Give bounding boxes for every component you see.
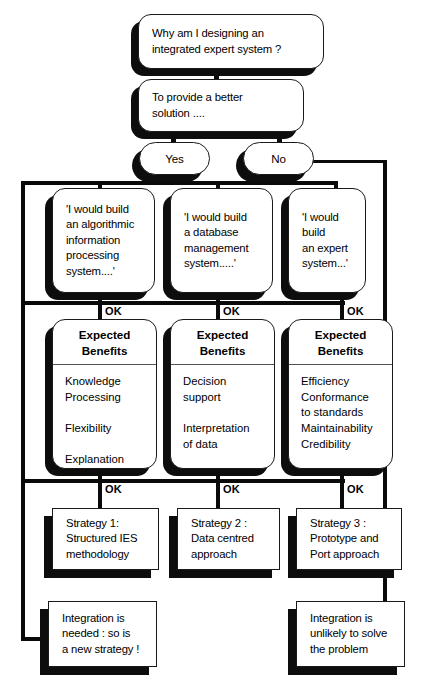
node-decision-no[interactable]: No xyxy=(243,142,314,175)
node-label: Strategy 1: Structured IES methodology xyxy=(53,516,158,562)
node-label: 'I would build a database management sys… xyxy=(171,210,272,272)
node-face: 'I would build an algorithmic informatio… xyxy=(52,188,155,293)
edge-label-ok-benefit-2: OK xyxy=(223,305,240,317)
node-outcome-integration-needed[interactable]: Integration is needed : so is a new stra… xyxy=(48,601,157,667)
node-face: 'I would build a database management sys… xyxy=(170,188,273,293)
node-provide-better-solution[interactable]: To provide a better solution .... xyxy=(138,79,304,132)
node-face: No xyxy=(243,142,314,175)
node-decision-yes[interactable]: Yes xyxy=(139,142,210,175)
drop-strategy-2 xyxy=(216,479,220,508)
bus-strategies xyxy=(21,479,345,483)
node-label: 'I would build an expert system...' xyxy=(289,210,365,272)
node-face: Strategy 1: Structured IES methodology xyxy=(52,508,159,570)
node-strategy-1[interactable]: Strategy 1: Structured IES methodology xyxy=(52,508,159,570)
node-label: Strategy 3 : Prototype and Port approach xyxy=(297,516,401,562)
node-face: Why am I designing an integrated expert … xyxy=(138,14,324,69)
node-face: 'I would build an expert system...' xyxy=(288,188,366,293)
node-strategy-2[interactable]: Strategy 2 : Data centred approach xyxy=(177,508,280,570)
node-claim-database-management[interactable]: 'I would build a database management sys… xyxy=(170,188,273,293)
node-label: Strategy 2 : Data centred approach xyxy=(178,516,279,562)
node-face: Expected Benefits Efficiency Conformance… xyxy=(288,319,393,469)
edge-label-ok-benefit-3: OK xyxy=(347,305,364,317)
node-expected-benefits-3[interactable]: Expected Benefits Efficiency Conformance… xyxy=(288,319,393,469)
node-strategy-3[interactable]: Strategy 3 : Prototype and Port approach xyxy=(296,508,402,570)
benefits-list: Knowledge Processing Flexibility Explana… xyxy=(53,365,156,472)
node-face: Integration is needed : so is a new stra… xyxy=(48,601,157,667)
node-face: Integration is unlikely to solve the pro… xyxy=(296,601,405,667)
node-root-question[interactable]: Why am I designing an integrated expert … xyxy=(138,14,324,69)
node-label: Yes xyxy=(165,151,183,166)
benefits-list: Efficiency Conformance to standards Main… xyxy=(289,365,392,468)
edge-label-ok-strategy-3: OK xyxy=(347,483,364,495)
benefits-list: Decision support Interpretation of data xyxy=(171,365,274,468)
edge-label-ok-strategy-1: OK xyxy=(105,483,122,495)
connector-no-right xyxy=(310,160,387,163)
drop-benefit-3 xyxy=(340,301,344,319)
benefits-header: Expected Benefits xyxy=(171,320,274,365)
node-label: No xyxy=(271,151,286,166)
edge-label-ok-strategy-2: OK xyxy=(223,483,240,495)
node-claim-algorithmic-ips[interactable]: 'I would build an algorithmic informatio… xyxy=(52,188,155,293)
node-label: Why am I designing an integrated expert … xyxy=(139,26,323,57)
drop-benefit-1 xyxy=(98,301,102,319)
edge-label-ok-benefit-1: OK xyxy=(105,305,122,317)
bus-benefits xyxy=(21,301,345,305)
drop-benefit-2 xyxy=(216,301,220,319)
drop-strategy-1 xyxy=(98,479,102,508)
flowchart-canvas: OK OK OK OK OK OK Why am I designing an … xyxy=(0,0,432,699)
drop-strategy-3 xyxy=(340,479,344,508)
node-claim-expert-system[interactable]: 'I would build an expert system...' xyxy=(288,188,366,293)
node-face: Expected Benefits Knowledge Processing F… xyxy=(52,319,157,469)
node-label: To provide a better solution .... xyxy=(139,90,303,121)
node-expected-benefits-1[interactable]: Expected Benefits Knowledge Processing F… xyxy=(52,319,157,469)
node-face: Expected Benefits Decision support Inter… xyxy=(170,319,275,469)
benefits-header: Expected Benefits xyxy=(53,320,156,365)
node-face: Strategy 3 : Prototype and Port approach xyxy=(296,508,402,570)
node-label: 'I would build an algorithmic informatio… xyxy=(53,202,154,279)
node-face: To provide a better solution .... xyxy=(138,79,304,132)
node-outcome-integration-unlikely[interactable]: Integration is unlikely to solve the pro… xyxy=(296,601,405,667)
node-expected-benefits-2[interactable]: Expected Benefits Decision support Inter… xyxy=(170,319,275,469)
node-label: Integration is needed : so is a new stra… xyxy=(49,611,156,657)
node-label: Integration is unlikely to solve the pro… xyxy=(297,611,404,657)
node-face: Yes xyxy=(139,142,210,175)
node-face: Strategy 2 : Data centred approach xyxy=(177,508,280,570)
rail-left xyxy=(21,181,25,641)
benefits-header: Expected Benefits xyxy=(289,320,392,365)
